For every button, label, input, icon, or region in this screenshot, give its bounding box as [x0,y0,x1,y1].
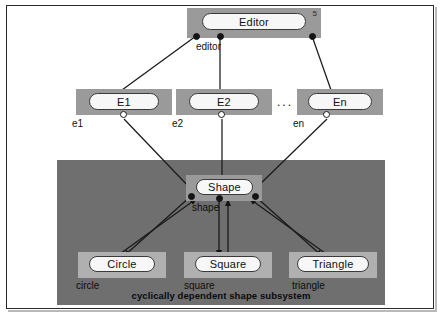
shape-port-left[interactable] [188,193,195,200]
e1-instance-label: e1 [72,118,83,129]
node-shape-label: Shape [196,179,253,195]
node-triangle-label: Triangle [297,256,369,272]
shape-port-bottom[interactable] [216,195,223,202]
node-square-label: Square [195,256,261,272]
en-port-bottom[interactable] [323,111,330,118]
editor-badge: 5 [313,9,317,18]
subsystem-caption: cyclically dependent shape subsystem [57,290,385,301]
shape-port-right[interactable] [252,193,259,200]
diagram-canvas: 5 Editor editor E1 e1 E2 e2 ... En en Sh… [0,0,441,316]
e2-port-bottom[interactable] [218,111,225,118]
node-editor-label: Editor [202,13,306,30]
node-circle-label: Circle [89,256,155,272]
editor-port-left[interactable] [193,33,200,40]
shape-instance-label: shape [192,202,219,213]
e2-instance-label: e2 [172,118,183,129]
editor-instance-label: editor [196,41,221,52]
node-en-label: En [308,93,372,110]
editor-port-right[interactable] [309,33,316,40]
nodes-ellipsis: ... [277,95,293,109]
e1-port-bottom[interactable] [120,111,127,118]
node-e2-label: E2 [189,93,259,110]
node-e1-label: E1 [89,93,159,110]
en-instance-label: en [293,118,304,129]
editor-port-center[interactable] [217,33,224,40]
